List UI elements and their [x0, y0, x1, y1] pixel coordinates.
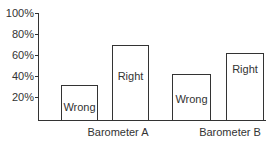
- y-tick-60: [35, 55, 39, 56]
- bar-barometer-b-wrong: Wrong: [172, 74, 211, 120]
- y-tick-40: [35, 76, 39, 77]
- y-tick-label: 80%: [12, 29, 34, 40]
- y-tick-label: 40%: [12, 71, 34, 82]
- x-axis: [38, 120, 266, 121]
- y-tick-20: [35, 97, 39, 98]
- y-axis: [38, 13, 39, 120]
- y-tick-label: 60%: [12, 50, 34, 61]
- bar-barometer-a-wrong: Wrong: [61, 85, 98, 120]
- x-category-label: Barometer A: [78, 126, 158, 138]
- x-category-label: Barometer B: [190, 126, 270, 138]
- bar-label: Right: [227, 63, 263, 75]
- y-tick-label: 100%: [6, 8, 34, 19]
- bar-label: Right: [113, 70, 148, 82]
- y-tick-100: [35, 13, 39, 14]
- bar-barometer-a-right: Right: [112, 45, 149, 120]
- y-tick-80: [35, 34, 39, 35]
- bar-barometer-b-right: Right: [226, 53, 264, 120]
- y-tick-label: 20%: [12, 92, 34, 103]
- bar-label: Wrong: [173, 93, 210, 105]
- bar-label: Wrong: [62, 101, 97, 113]
